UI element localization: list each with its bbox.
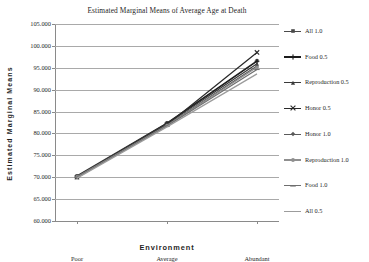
- y-tick-label: 70.000: [33, 174, 51, 180]
- x-tick-label: Abundant: [244, 256, 269, 262]
- legend-item[interactable]: Food 0.5: [284, 52, 327, 62]
- y-tick-label: 105.000: [30, 21, 51, 27]
- legend-item[interactable]: Honor 1.0: [284, 129, 331, 139]
- x-tick-mark: [257, 221, 258, 224]
- series-line: [77, 61, 257, 176]
- y-tick-label: 100.000: [30, 43, 51, 49]
- y-tick-label: 95.000: [33, 65, 51, 71]
- y-axis-title-label: Estimated Marginal Means: [6, 66, 13, 180]
- plot-area: PoorAverageAbundant: [55, 24, 279, 222]
- series-layer: [55, 24, 279, 222]
- data-point-marker: [255, 50, 259, 54]
- data-point-marker: [255, 66, 258, 69]
- y-tick-label: 85.000: [33, 109, 51, 115]
- y-axis-title: Estimated Marginal Means: [2, 24, 16, 222]
- legend-item[interactable]: Food 1.0: [284, 181, 327, 191]
- legend-marker-icon: [284, 104, 301, 113]
- legend-item[interactable]: All 1.0: [284, 26, 323, 36]
- legend-marker-icon: [284, 27, 301, 36]
- series-line: [77, 52, 257, 177]
- legend-item[interactable]: Honor 0.5: [284, 103, 331, 113]
- legend-marker-icon: [284, 52, 301, 61]
- legend-marker-icon: [284, 130, 301, 139]
- x-tick-label: Average: [156, 256, 177, 262]
- y-tick-label: 90.000: [33, 87, 51, 93]
- y-tick-label: 80.000: [33, 130, 51, 136]
- x-tick-mark: [77, 221, 78, 224]
- legend-label: All 0.5: [305, 208, 323, 214]
- legend-item[interactable]: Reproduction 0.5: [284, 78, 349, 88]
- data-point-marker: [254, 69, 259, 70]
- legend-label: All 1.0: [305, 28, 323, 34]
- legend-marker-icon: [284, 78, 301, 87]
- legend-label: Food 1.0: [305, 182, 327, 188]
- x-tick-mark: [167, 221, 168, 224]
- legend-marker-icon: [284, 181, 301, 190]
- x-tick-label: Poor: [71, 256, 83, 262]
- chart-title: Estimated Marginal Means of Average Age …: [55, 6, 279, 15]
- legend-item[interactable]: Reproduction 1.0: [284, 155, 349, 165]
- legend-label: Honor 0.5: [305, 105, 331, 111]
- legend-marker-icon: [284, 155, 301, 164]
- chart-legend: All 1.0Food 0.5Reproduction 0.5Honor 0.5…: [284, 24, 368, 230]
- y-tick-label: 75.000: [33, 152, 51, 158]
- legend-label: Reproduction 0.5: [305, 79, 349, 85]
- legend-label: Honor 1.0: [305, 131, 331, 137]
- x-axis-title: Environment: [55, 243, 279, 252]
- legend-item[interactable]: All 0.5: [284, 206, 323, 216]
- legend-marker-icon: [284, 207, 301, 216]
- y-tick-label: 60.000: [33, 218, 51, 224]
- legend-label: Reproduction 1.0: [305, 157, 349, 163]
- y-tick-label: 65.000: [33, 196, 51, 202]
- legend-label: Food 0.5: [305, 54, 327, 60]
